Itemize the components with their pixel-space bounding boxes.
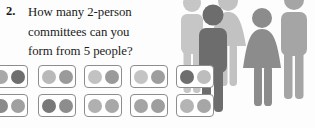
dot-left [0,70,8,84]
dot-pair-cell [0,94,28,117]
dot-left [42,99,56,113]
dot-left [180,70,194,84]
dot-pair-cell [0,65,28,88]
dot-pair-grid [0,65,216,125]
dot-left [88,70,102,84]
dot-left [42,70,56,84]
dot-pair-cell [176,65,214,88]
dot-pair-cell [38,94,76,117]
dot-left [134,70,148,84]
question-line-2: committees can you [28,23,188,43]
dot-pair-cell [176,94,214,117]
dot-left [134,99,148,113]
dot-right [11,70,25,84]
dot-pair-cell [130,94,168,117]
dot-right [105,99,119,113]
dot-pair-cell [130,65,168,88]
front-woman-icon [243,8,281,106]
dot-pair-cell [38,65,76,88]
dot-right [11,99,25,113]
dot-pair-row-1 [0,65,216,91]
question-line-3: form from 5 people? [28,42,188,62]
question-line-1: How many 2-person [28,3,188,23]
dot-right [197,70,211,84]
worksheet-problem-panel: 2. How many 2-person committees can you … [0,0,315,128]
dot-pair-row-2 [0,94,216,120]
dot-right [59,99,73,113]
dot-left [0,99,8,113]
question-number: 2. [6,4,16,19]
dot-right [151,99,165,113]
question-text: How many 2-person committees can you for… [28,3,188,62]
dot-right [197,99,211,113]
dot-right [59,70,73,84]
dot-right [151,70,165,84]
dot-right [105,70,119,84]
back-right-man-icon [281,0,307,99]
dot-left [180,99,194,113]
dot-pair-cell [84,94,122,117]
dot-left [88,99,102,113]
dot-pair-cell [84,65,122,88]
